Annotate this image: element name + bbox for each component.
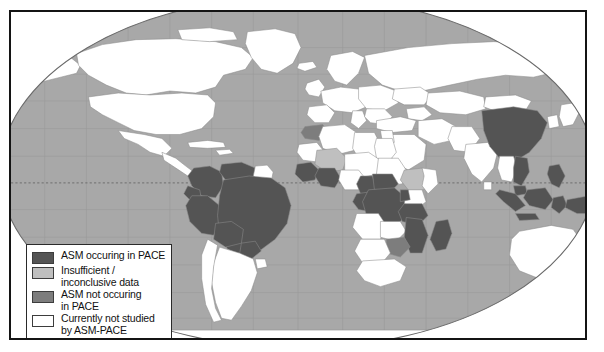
- legend-item-not-studied: Currently not studied by ASM-PACE: [32, 313, 166, 336]
- legend-item-insufficient: Insufficient / inconclusive data: [32, 265, 166, 288]
- legend-label-asm-occurring: ASM occuring in PACE: [61, 250, 165, 262]
- legend-label-insufficient: Insufficient / inconclusive data: [61, 265, 139, 288]
- region-korea: [547, 115, 559, 129]
- map-legend: ASM occuring in PACE Insufficient / inco…: [26, 244, 172, 340]
- legend-item-asm-not-occurring: ASM not occuring in PACE: [32, 289, 166, 312]
- region-java: [515, 214, 539, 221]
- legend-swatch-asm-occurring: [32, 252, 54, 264]
- legend-swatch-not-studied: [32, 315, 54, 327]
- legend-label-not-studied: Currently not studied by ASM-PACE: [61, 313, 155, 336]
- region-sri-lanka: [484, 182, 492, 190]
- region-uganda: [400, 190, 410, 202]
- legend-label-asm-not-occurring: ASM not occuring in PACE: [61, 289, 141, 312]
- legend-item-asm-occurring: ASM occuring in PACE: [32, 250, 166, 264]
- legend-swatch-insufficient: [32, 267, 54, 279]
- region-uruguay: [255, 259, 267, 269]
- map-figure-frame: ASM occuring in PACE Insufficient / inco…: [9, 10, 587, 340]
- legend-swatch-asm-not-occurring: [32, 291, 54, 303]
